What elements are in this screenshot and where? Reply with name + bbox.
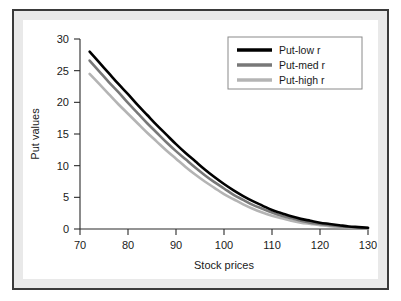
- x-tick-label: 130: [359, 239, 377, 251]
- legend-label-3: Put-high r: [279, 74, 325, 86]
- legend-label-1: Put-low r: [279, 44, 321, 56]
- x-tick-label: 120: [311, 239, 329, 251]
- y-axis-ticks: 051015202530: [57, 33, 80, 235]
- y-tick-label: 15: [57, 128, 69, 140]
- y-tick-label: 10: [57, 160, 69, 172]
- x-axis-ticks: 708090100110120130: [74, 229, 377, 251]
- put-values-line-chart: 051015202530 708090100110120130 Stock pr…: [23, 20, 380, 281]
- y-tick-label: 20: [57, 96, 69, 108]
- y-tick-label: 5: [63, 191, 69, 203]
- x-tick-label: 90: [170, 239, 182, 251]
- x-tick-label: 110: [263, 239, 281, 251]
- figure-root: 051015202530 708090100110120130 Stock pr…: [0, 0, 401, 301]
- chart-canvas: 051015202530 708090100110120130 Stock pr…: [23, 20, 378, 279]
- x-tick-label: 80: [122, 239, 134, 251]
- y-tick-label: 0: [63, 223, 69, 235]
- y-tick-label: 30: [57, 33, 69, 45]
- y-tick-label: 25: [57, 65, 69, 77]
- x-tick-label: 70: [74, 239, 86, 251]
- x-tick-label: 100: [215, 239, 233, 251]
- legend-label-2: Put-med r: [279, 59, 326, 71]
- x-axis-title: Stock prices: [194, 259, 254, 271]
- y-axis-title: Put values: [29, 108, 41, 160]
- chart-legend[interactable]: Put-low rPut-med rPut-high r: [228, 37, 362, 89]
- figure-frame: 051015202530 708090100110120130 Stock pr…: [12, 9, 389, 290]
